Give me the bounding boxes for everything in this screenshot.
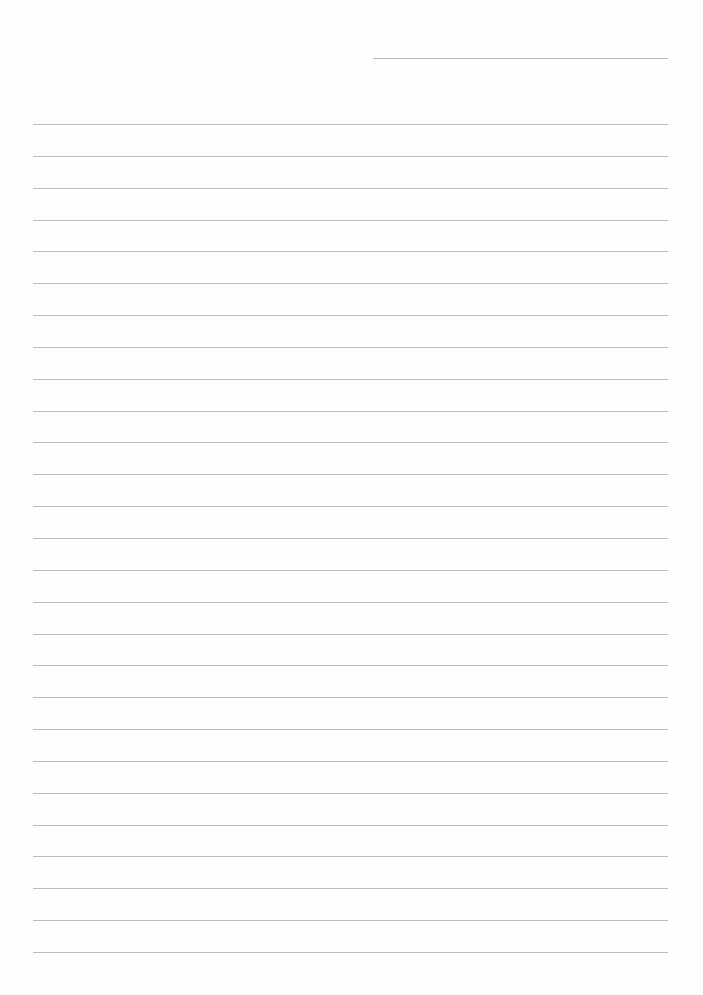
ruled-line (33, 570, 668, 571)
ruled-line (33, 602, 668, 603)
ruled-line (33, 761, 668, 762)
ruled-line (33, 379, 668, 380)
ruled-line (33, 825, 668, 826)
header-write-line (373, 58, 668, 59)
ruled-line (33, 124, 668, 125)
ruled-line (33, 729, 668, 730)
ruled-line (33, 697, 668, 698)
ruled-line (33, 538, 668, 539)
ruled-line (33, 665, 668, 666)
ruled-line (33, 920, 668, 921)
ruled-line (33, 188, 668, 189)
ruled-line (33, 793, 668, 794)
ruled-line (33, 856, 668, 857)
ruled-line (33, 634, 668, 635)
ruled-line (33, 888, 668, 889)
ruled-line (33, 952, 668, 953)
ruled-line (33, 156, 668, 157)
ruled-line (33, 283, 668, 284)
lined-paper-page (0, 0, 703, 995)
ruled-line (33, 315, 668, 316)
ruled-line (33, 220, 668, 221)
ruled-line (33, 442, 668, 443)
ruled-line (33, 474, 668, 475)
ruled-line (33, 506, 668, 507)
ruled-line (33, 411, 668, 412)
ruled-line (33, 347, 668, 348)
ruled-line (33, 251, 668, 252)
